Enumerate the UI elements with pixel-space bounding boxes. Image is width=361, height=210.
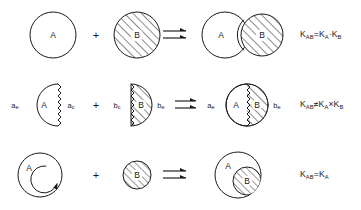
row2-product-label-b-exterior: be	[273, 101, 280, 111]
row2-equation: KAB≠KA×KB	[300, 99, 343, 109]
row2-p-ae-sub: e	[212, 104, 215, 110]
row3-reactant-a: A	[18, 153, 62, 197]
half-disc-a-wavy-edge	[58, 84, 61, 126]
row1-eq-term2-sub: B	[338, 34, 342, 40]
row2-plus-operator: +	[93, 99, 99, 111]
row2-label-a: A	[41, 100, 47, 110]
row2-label-b: B	[138, 100, 144, 110]
svg-text:KAB=KA: KAB=KA	[300, 169, 329, 179]
row3-plus-operator: +	[93, 169, 99, 181]
row1-label-a: A	[50, 30, 56, 40]
row3-product-label-a: A	[225, 161, 231, 171]
row2-p-be-sub: e	[278, 104, 281, 110]
row2-product-label-b: B	[254, 100, 260, 110]
row1-label-b: B	[134, 30, 140, 40]
half-disc-a-arc	[37, 84, 58, 126]
row2-product-complex: A B	[226, 84, 268, 126]
row2-product-label-a-exterior: ae	[207, 101, 214, 111]
row2-reactant-a: A	[37, 84, 61, 126]
row1-reactant-a: A	[30, 12, 76, 58]
row1-plus-operator: +	[93, 29, 99, 41]
row-3-group: A + B A B KAB=KA	[18, 152, 329, 198]
row1-product-complex: A B	[202, 12, 283, 58]
row3-eq-lhs-sub: AB	[306, 174, 314, 180]
row2-bc-sub: c	[118, 104, 121, 110]
row2-ae-sub: e	[16, 104, 19, 110]
svg-text:KAB=KA·KB: KAB=KA·KB	[300, 29, 342, 39]
row3-product-label-b: B	[244, 176, 250, 186]
row3-label-a: A	[26, 163, 32, 173]
row2-reactant-b: B	[131, 84, 152, 126]
circle-a-outline	[18, 153, 62, 197]
row2-eq-term2-sub: B	[339, 104, 343, 110]
row2-label-b-contact: bc	[114, 101, 121, 111]
row1-product-label-a: A	[218, 30, 224, 40]
svg-text:KAB≠KA×KB: KAB≠KA×KB	[300, 99, 343, 109]
row2-eq-lhs-sub: AB	[306, 104, 314, 110]
row1-product-label-b: B	[259, 30, 265, 40]
row2-equilibrium-arrow	[175, 101, 196, 108]
row2-label-a-contact: ac	[68, 101, 75, 111]
row3-label-b: B	[134, 170, 140, 180]
row-1-group: A + B A B KAB=KA·KB	[30, 12, 342, 58]
row2-label-a-exterior: ae	[11, 101, 18, 111]
row2-product-label-a: A	[233, 100, 239, 110]
row1-equation: KAB=KA·KB	[300, 29, 342, 39]
row3-equation: KAB=KA	[300, 169, 329, 179]
row3-eq-term1-sub: A	[325, 174, 329, 180]
reaction-scheme-figure: A + B A B KAB=KA·KB	[0, 0, 361, 210]
row2-label-b-exterior: be	[157, 101, 164, 111]
row2-ac-sub: c	[72, 104, 75, 110]
row2-be-sub: e	[162, 104, 165, 110]
row3-equilibrium-arrow	[163, 171, 186, 178]
row3-reactant-b: B	[123, 161, 151, 189]
row1-reactant-b: B	[114, 12, 160, 58]
row1-equilibrium-arrow	[163, 31, 186, 38]
row-2-group: ae A ac + bc B be	[11, 84, 343, 126]
row1-eq-lhs-sub: AB	[306, 34, 314, 40]
row3-product-complex: A B	[215, 152, 261, 198]
